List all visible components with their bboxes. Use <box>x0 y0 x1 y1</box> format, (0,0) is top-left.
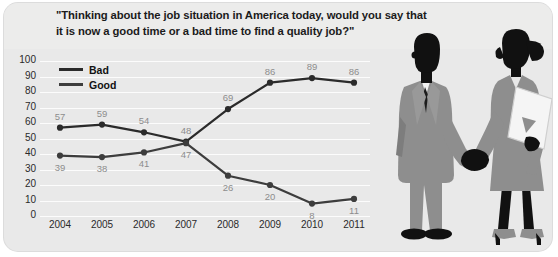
legend-swatch <box>59 83 83 86</box>
data-point <box>351 80 357 86</box>
data-point <box>183 140 189 146</box>
y-axis-tick-label: 70 <box>10 101 36 112</box>
y-axis-tick-label: 20 <box>10 178 36 189</box>
data-point-label: 59 <box>87 108 117 119</box>
y-axis-tick-label: 40 <box>10 147 36 158</box>
data-point-label: 69 <box>213 92 243 103</box>
y-axis-tick-label: 100 <box>10 54 36 65</box>
x-axis-tick-label: 2004 <box>40 219 80 230</box>
data-point-label: 38 <box>87 163 117 174</box>
handshake-illustration <box>376 25 552 251</box>
data-point <box>351 196 357 202</box>
data-point-label: 20 <box>255 191 285 202</box>
data-point-label: 89 <box>297 61 327 72</box>
data-point <box>141 149 147 155</box>
data-point-label: 11 <box>339 205 369 216</box>
y-axis-tick-label: 80 <box>10 85 36 96</box>
legend-item-bad: Bad <box>59 63 139 76</box>
data-point-label: 86 <box>255 66 285 77</box>
x-axis: 20042005200620072008200920102011 <box>40 219 370 239</box>
y-axis-tick-label: 60 <box>10 116 36 127</box>
legend-swatch <box>59 68 83 71</box>
legend-item-good: Good <box>59 78 139 91</box>
data-point <box>57 152 63 158</box>
data-point-label: 47 <box>171 149 201 160</box>
legend-label: Bad <box>89 64 109 76</box>
y-axis-tick-label: 0 <box>10 209 36 220</box>
data-point <box>141 129 147 135</box>
data-point <box>99 154 105 160</box>
y-axis-tick-label: 10 <box>10 194 36 205</box>
data-point-label: 41 <box>129 158 159 169</box>
x-axis-tick-label: 2010 <box>292 219 332 230</box>
data-point <box>309 75 315 81</box>
y-axis-tick-label: 90 <box>10 70 36 81</box>
y-axis: 0102030405060708090100 <box>4 61 36 216</box>
data-point <box>225 173 231 179</box>
data-point-label: 57 <box>45 111 75 122</box>
chart-legend: BadGood <box>59 63 139 93</box>
x-axis-tick-label: 2009 <box>250 219 290 230</box>
data-point <box>267 182 273 188</box>
y-axis-tick-label: 50 <box>10 132 36 143</box>
data-point <box>57 125 63 131</box>
x-axis-tick-label: 2008 <box>208 219 248 230</box>
data-point-label: 86 <box>339 66 369 77</box>
x-axis-tick-label: 2007 <box>166 219 206 230</box>
x-axis-tick-label: 2005 <box>82 219 122 230</box>
infographic-card: "Thinking about the job situation in Ame… <box>4 3 552 251</box>
handshake-silhouette-icon <box>376 25 552 251</box>
data-point <box>99 121 105 127</box>
data-point-label: 39 <box>45 162 75 173</box>
x-axis-tick-label: 2006 <box>124 219 164 230</box>
data-point <box>267 80 273 86</box>
data-point <box>225 106 231 112</box>
x-axis-tick-label: 2011 <box>334 219 374 230</box>
data-point <box>309 201 315 207</box>
legend-label: Good <box>89 79 116 91</box>
data-point-label: 54 <box>129 115 159 126</box>
y-axis-tick-label: 30 <box>10 163 36 174</box>
data-point-label: 26 <box>213 182 243 193</box>
data-point-label: 48 <box>171 125 201 136</box>
